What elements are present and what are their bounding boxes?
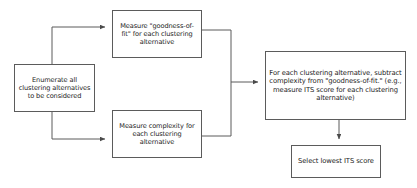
node-complexity-label: Measure complexity for each clustering a… xyxy=(116,122,198,146)
edge-complexity-to-subtract xyxy=(202,82,231,136)
node-enumerate-alternatives: Enumerate all clustering alternatives to… xyxy=(14,64,95,112)
node-measure-complexity: Measure complexity for each clustering a… xyxy=(112,110,202,158)
node-measure-goodness-of-fit: Measure "goodness-of-fit" for each clust… xyxy=(112,10,202,58)
edge-enumerate-to-complexity xyxy=(52,112,105,139)
node-enumerate-label: Enumerate all clustering alternatives to… xyxy=(18,76,91,100)
node-subtract-complexity: For each clustering alternative, subtrac… xyxy=(265,51,406,120)
edge-goodness-to-subtract xyxy=(202,30,231,82)
node-subtract-label: For each clustering alternative, subtrac… xyxy=(269,69,402,102)
node-goodness-label: Measure "goodness-of-fit" for each clust… xyxy=(116,22,198,46)
flowchart-canvas: Enumerate all clustering alternatives to… xyxy=(0,0,417,188)
edge-enumerate-to-goodness xyxy=(52,27,105,64)
node-select-lowest-its: Select lowest ITS score xyxy=(291,145,381,178)
node-select-label: Select lowest ITS score xyxy=(295,157,377,165)
